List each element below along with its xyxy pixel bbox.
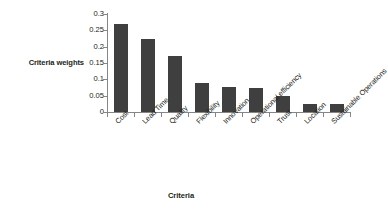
x-axis-tick-label: Lead Time [141, 96, 170, 125]
x-axis-tick-label: Location [303, 101, 328, 126]
x-axis-tick-label: Sustainable Operations [330, 67, 388, 125]
x-axis-tick-label: Trust [276, 109, 293, 126]
x-axis-tick-label: Flexibility [195, 99, 221, 125]
x-axis-tick-label: Quality [168, 104, 189, 125]
x-axis-tick-label: Cost [114, 110, 130, 126]
x-axis-tick-label: Innovation [222, 97, 251, 126]
x-axis-title: Criteria [0, 191, 362, 200]
